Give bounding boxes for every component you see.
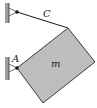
lower-wall bbox=[5, 57, 9, 80]
label-a: A bbox=[11, 53, 19, 64]
pin-c-icon bbox=[15, 10, 19, 14]
label-c: C bbox=[43, 8, 51, 19]
diagram-canvas: C m A bbox=[0, 0, 97, 108]
upper-wall bbox=[5, 3, 9, 23]
label-m: m bbox=[51, 58, 60, 69]
pin-a-icon bbox=[15, 66, 19, 70]
